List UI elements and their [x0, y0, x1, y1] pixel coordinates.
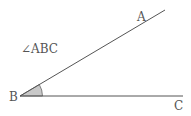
point-b-label: B — [9, 90, 18, 104]
point-c-label: C — [174, 99, 183, 113]
angle-diagram: ∠ABC A B C — [0, 0, 191, 116]
angle-title: ∠ABC — [21, 42, 58, 56]
point-a-label: A — [136, 10, 146, 24]
